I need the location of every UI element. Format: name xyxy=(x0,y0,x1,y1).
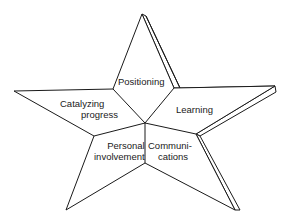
label-catalyzing-progress: Catalyzing progress xyxy=(60,98,118,120)
label-catalyzing-progress-line2: progress xyxy=(60,109,118,120)
label-communications-line2: cations xyxy=(148,151,192,162)
label-catalyzing-progress-line1: Catalyzing xyxy=(60,98,118,109)
label-learning: Learning xyxy=(176,104,213,115)
label-communications-line1: Communi- xyxy=(148,140,192,151)
star-diagram xyxy=(0,0,288,219)
label-personal-involvement-line1: Personal xyxy=(94,140,145,151)
label-positioning: Positioning xyxy=(118,76,164,87)
label-communications: Communi- cations xyxy=(148,140,192,162)
label-personal-involvement-line2: involvement xyxy=(94,151,145,162)
label-personal-involvement: Personal involvement xyxy=(94,140,145,162)
